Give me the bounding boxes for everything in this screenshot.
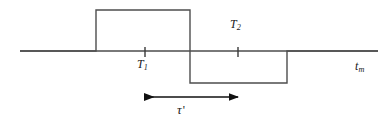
label-tau-prime-base: τ bbox=[177, 102, 182, 117]
label-T2-base: T bbox=[230, 17, 237, 31]
label-time-axis-subscript: m bbox=[359, 65, 365, 74]
label-T2-subscript: 2 bbox=[237, 23, 241, 32]
label-time-axis: tm bbox=[355, 60, 364, 72]
diagram-canvas bbox=[0, 0, 390, 125]
pulse-waveform bbox=[20, 10, 378, 83]
label-T1-base: T bbox=[137, 57, 144, 71]
label-tau-prime: τ' bbox=[177, 103, 185, 116]
label-T1-subscript: 1 bbox=[144, 63, 148, 72]
label-tau-prime-mark: ' bbox=[182, 103, 185, 117]
label-T1: T1 bbox=[137, 58, 148, 70]
waveform-timing-diagram: T1 T2 tm τ' bbox=[0, 0, 390, 125]
label-T2: T2 bbox=[230, 18, 241, 30]
label-time-axis-base: t bbox=[355, 59, 358, 73]
